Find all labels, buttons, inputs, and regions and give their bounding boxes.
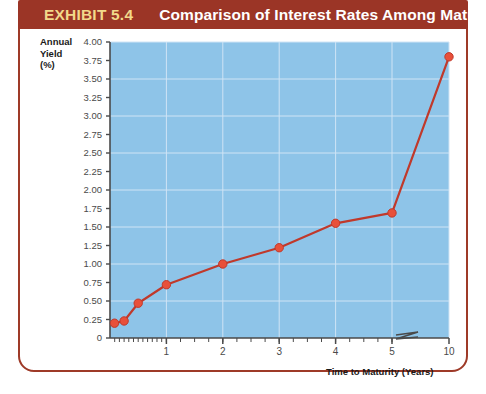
exhibit-number-label: EXHIBIT 5.4 <box>44 6 133 24</box>
exhibit-title-label: Comparison of Interest Rates Among Matur… <box>159 6 486 24</box>
exhibit-frame <box>18 4 468 372</box>
exhibit-header-bar: EXHIBIT 5.4 Comparison of Interest Rates… <box>18 0 468 29</box>
